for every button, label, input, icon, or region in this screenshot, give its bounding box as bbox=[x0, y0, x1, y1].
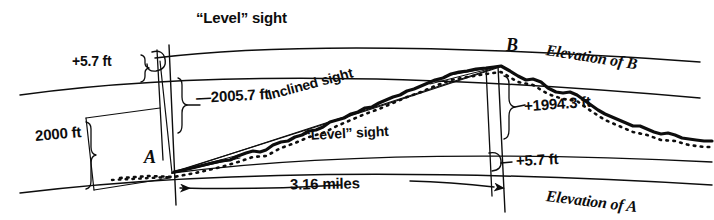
sight-fan-at-b bbox=[430, 66, 501, 84]
label-level-sight-top: “Level” sight bbox=[196, 10, 287, 25]
label-plus-5-7-top: +5.7 ft bbox=[72, 54, 111, 68]
label-3-16-miles: 3.16 miles bbox=[290, 175, 360, 191]
point-label-b: B bbox=[506, 36, 518, 54]
point-label-a: A bbox=[144, 148, 156, 166]
level-sight-lower-arc bbox=[172, 156, 712, 173]
label-plus-5-7-bottom: +5.7 ft bbox=[516, 151, 559, 168]
label-minus-2005-7: —2005.7 ft bbox=[196, 86, 270, 105]
brace-plus-1994-3 bbox=[504, 76, 515, 139]
elevation-of-b-curve bbox=[20, 78, 700, 98]
brace-minus-2005-7 bbox=[178, 78, 187, 133]
elevation-of-a-curve bbox=[20, 174, 712, 193]
dim-box-2000-top bbox=[86, 108, 160, 118]
vertical-line-at-a bbox=[169, 45, 176, 205]
label-level-sight-lower: “Level” sight bbox=[304, 124, 389, 142]
surveying-curvature-diagram: “Level” sight +5.7 ft —2005.7 ft Incline… bbox=[0, 0, 714, 220]
vertical-line-at-b-inner bbox=[486, 68, 492, 196]
distance-arrow-right bbox=[410, 181, 494, 187]
brace-5-7-top-loop bbox=[147, 51, 165, 71]
leader-5-7-bottom bbox=[501, 162, 512, 163]
label-plus-1994-3: +1994.3 ft bbox=[524, 94, 592, 114]
label-2000-ft: 2000 ft bbox=[34, 124, 81, 143]
